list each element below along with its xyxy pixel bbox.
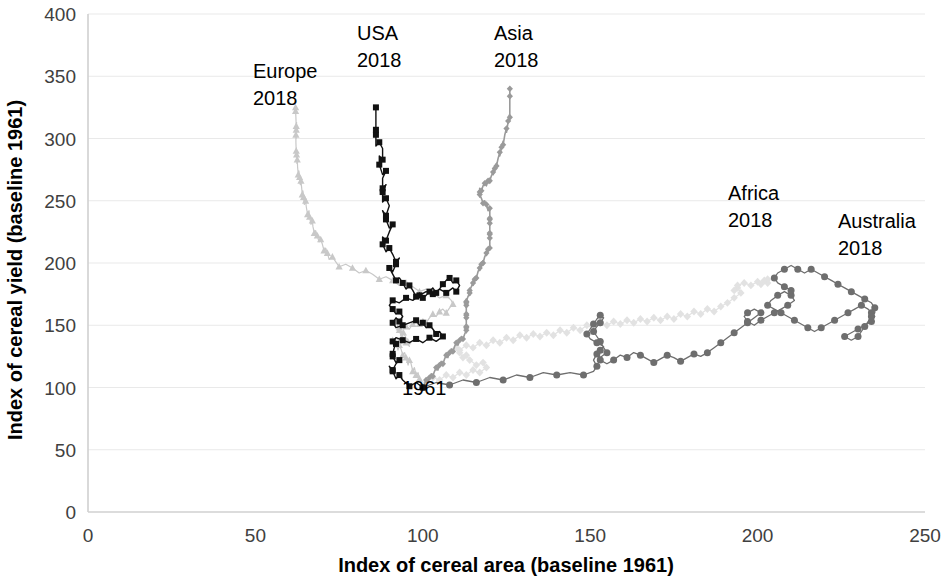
x-tick-label: 250 xyxy=(909,525,941,546)
data-point-marker xyxy=(503,125,509,132)
y-axis-title: Index of cereal yield (baseline 1961) xyxy=(4,100,26,440)
data-point-marker xyxy=(804,324,811,331)
series-usa xyxy=(373,104,460,390)
data-point-marker xyxy=(463,323,469,330)
data-point-marker xyxy=(503,334,510,342)
data-point-marker xyxy=(426,335,432,341)
data-point-marker xyxy=(550,331,557,339)
data-point-marker xyxy=(781,266,788,273)
data-point-marker xyxy=(597,347,604,354)
data-point-marker xyxy=(489,336,496,344)
x-tick-label: 50 xyxy=(245,525,266,546)
data-point-marker xyxy=(818,324,825,331)
data-point-marker xyxy=(650,359,657,366)
data-point-marker xyxy=(543,329,550,337)
data-point-marker xyxy=(788,287,795,294)
data-point-marker xyxy=(771,309,778,316)
annotation-africa: Africa2018 xyxy=(728,182,780,231)
data-point-marker xyxy=(778,309,785,316)
data-series-layer xyxy=(292,85,878,391)
data-point-marker xyxy=(383,238,389,244)
x-tick-label: 150 xyxy=(574,525,606,546)
data-point-marker xyxy=(730,294,737,302)
annotation-line: 1961 xyxy=(402,377,447,399)
annotation-line: Europe xyxy=(253,60,318,82)
data-point-marker xyxy=(624,354,631,361)
data-point-marker xyxy=(476,339,483,347)
data-point-marker xyxy=(463,311,469,318)
data-point-marker xyxy=(500,377,507,384)
y-tick-label: 50 xyxy=(55,440,76,461)
data-point-marker xyxy=(576,326,583,334)
data-point-marker xyxy=(610,318,617,326)
data-point-marker xyxy=(731,329,738,336)
data-point-marker xyxy=(583,321,590,329)
data-point-marker xyxy=(868,313,875,320)
data-point-marker xyxy=(858,302,865,309)
data-point-marker xyxy=(764,302,771,309)
chart-svg: 050100150200250300350400 050100150200250… xyxy=(0,0,948,579)
data-point-marker xyxy=(597,357,604,364)
data-point-marker xyxy=(406,282,412,288)
data-point-marker xyxy=(373,127,379,133)
data-point-marker xyxy=(757,309,764,316)
data-point-marker xyxy=(623,316,630,324)
data-point-marker xyxy=(433,331,439,337)
data-point-marker xyxy=(380,157,386,163)
data-point-marker xyxy=(349,264,356,271)
data-point-marker xyxy=(396,357,402,363)
data-point-marker xyxy=(710,308,717,316)
data-point-marker xyxy=(463,298,469,305)
annotation-line: 2018 xyxy=(494,49,539,71)
data-point-marker xyxy=(390,351,396,357)
data-point-marker xyxy=(593,339,600,346)
data-point-marker xyxy=(664,352,671,359)
y-tick-label: 300 xyxy=(44,129,76,150)
data-point-marker xyxy=(380,185,386,191)
data-point-marker xyxy=(841,333,848,340)
data-point-marker xyxy=(413,294,419,300)
data-point-marker xyxy=(848,288,855,295)
data-point-marker xyxy=(523,334,530,342)
x-axis-title: Index of cereal area (baseline 1961) xyxy=(338,554,674,576)
annotation-line: USA xyxy=(357,22,399,44)
data-point-marker xyxy=(304,211,311,218)
data-point-marker xyxy=(861,323,868,330)
data-point-marker xyxy=(583,330,590,337)
data-point-marker xyxy=(831,317,838,324)
data-point-marker xyxy=(456,369,463,377)
data-point-marker xyxy=(774,292,781,299)
data-point-marker xyxy=(426,289,432,295)
data-point-marker xyxy=(496,339,503,347)
data-point-marker xyxy=(855,333,862,340)
annotation-line: Africa xyxy=(728,182,780,204)
data-point-marker xyxy=(390,320,396,326)
data-point-marker xyxy=(507,93,513,100)
data-point-marker xyxy=(383,168,389,174)
annotation-europe: Europe2018 xyxy=(253,60,318,109)
data-point-marker xyxy=(483,341,490,349)
data-point-marker xyxy=(376,139,382,145)
data-point-marker xyxy=(487,230,493,237)
annotation-australia: Australia2018 xyxy=(838,210,917,259)
data-point-marker xyxy=(637,352,644,359)
data-point-marker xyxy=(446,382,453,389)
data-point-marker xyxy=(784,302,791,309)
data-point-marker xyxy=(429,310,436,317)
data-point-marker xyxy=(603,349,610,356)
data-point-marker xyxy=(553,372,560,379)
y-tick-labels: 050100150200250300350400 xyxy=(44,4,76,523)
x-tick-label: 0 xyxy=(83,525,94,546)
data-point-marker xyxy=(657,316,664,324)
data-point-marker xyxy=(747,281,754,289)
data-point-marker xyxy=(724,299,731,307)
data-point-marker xyxy=(390,338,396,344)
data-point-marker xyxy=(530,330,537,338)
data-point-marker xyxy=(637,315,644,323)
y-tick-label: 400 xyxy=(44,4,76,25)
series-australia xyxy=(419,266,878,392)
data-point-marker xyxy=(808,266,815,273)
data-point-marker xyxy=(293,147,300,154)
data-point-marker xyxy=(463,341,470,349)
data-point-marker xyxy=(590,321,597,328)
